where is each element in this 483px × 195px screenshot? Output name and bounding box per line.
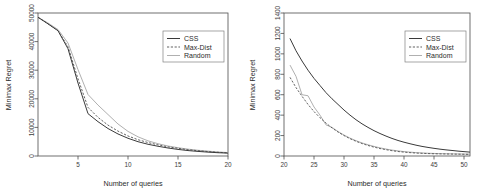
left-y-axis: 01000020000300004000050000 xyxy=(28,4,38,158)
right-plot-frame xyxy=(284,13,470,156)
left-x-tick-label: 20 xyxy=(224,161,232,168)
right-y-tick-label: 1000 xyxy=(273,46,280,61)
left-legend-label-css: CSS xyxy=(184,35,199,42)
left-y-tick-label: 40000 xyxy=(28,32,35,50)
right-x-tick-label: 50 xyxy=(460,161,468,168)
left-legend-label-max-dist: Max-Dist xyxy=(184,44,212,51)
left-y-axis-title: Minimax Regret xyxy=(4,60,13,110)
right-y-tick-label: 1400 xyxy=(273,5,280,20)
left-y-tick-label: 10000 xyxy=(28,118,35,136)
right-chart-panel: 0200400600800100012001400 20253035404550… xyxy=(242,0,483,195)
right-x-tick-label: 20 xyxy=(280,161,288,168)
left-y-tick-label: 0 xyxy=(28,154,35,158)
left-y-tick-label: 30000 xyxy=(28,61,35,79)
right-x-tick-label: 35 xyxy=(370,161,378,168)
left-x-axis: 5101520 xyxy=(76,156,232,168)
left-series-css xyxy=(38,17,228,153)
right-series-random xyxy=(290,65,470,154)
right-x-tick-label: 45 xyxy=(430,161,438,168)
left-series-group xyxy=(38,17,228,153)
right-y-tick-label: 400 xyxy=(273,109,280,120)
right-x-tick-label: 40 xyxy=(400,161,408,168)
right-legend-label-random: Random xyxy=(426,52,453,59)
right-y-tick-label: 0 xyxy=(273,154,280,158)
left-y-tick-label: 50000 xyxy=(28,4,35,22)
figure-two-panel-line-charts: 01000020000300004000050000 5101520 Numbe… xyxy=(0,0,483,195)
right-x-axis-title: Number of queries xyxy=(347,179,407,188)
left-legend-label-random: Random xyxy=(184,52,211,59)
right-legend-label-css: CSS xyxy=(426,35,441,42)
right-x-axis: 20253035404550 xyxy=(280,156,468,168)
right-legend: CSS Max-Dist Random xyxy=(405,31,466,62)
right-chart-svg: 0200400600800100012001400 20253035404550… xyxy=(242,0,483,195)
right-y-tick-label: 1200 xyxy=(273,26,280,41)
left-x-tick-label: 10 xyxy=(124,161,132,168)
right-y-tick-label: 200 xyxy=(273,130,280,141)
right-y-axis-title: Minimax Regret xyxy=(248,60,257,110)
right-legend-label-max-dist: Max-Dist xyxy=(426,44,454,51)
right-x-tick-label: 25 xyxy=(310,161,318,168)
left-series-random xyxy=(38,17,228,152)
left-series-max-dist xyxy=(38,17,228,153)
left-legend: CSS Max-Dist Random xyxy=(163,31,224,62)
left-x-axis-title: Number of queries xyxy=(103,179,163,188)
right-y-tick-label: 800 xyxy=(273,69,280,80)
right-series-max-dist xyxy=(290,77,470,154)
left-chart-svg: 01000020000300004000050000 5101520 Numbe… xyxy=(0,0,242,195)
right-y-axis: 0200400600800100012001400 xyxy=(273,5,283,157)
left-chart-panel: 01000020000300004000050000 5101520 Numbe… xyxy=(0,0,242,195)
left-x-tick-label: 5 xyxy=(76,161,80,168)
right-y-tick-label: 600 xyxy=(273,89,280,100)
left-x-tick-label: 15 xyxy=(174,161,182,168)
right-x-tick-label: 30 xyxy=(340,161,348,168)
left-y-tick-label: 20000 xyxy=(28,89,35,107)
